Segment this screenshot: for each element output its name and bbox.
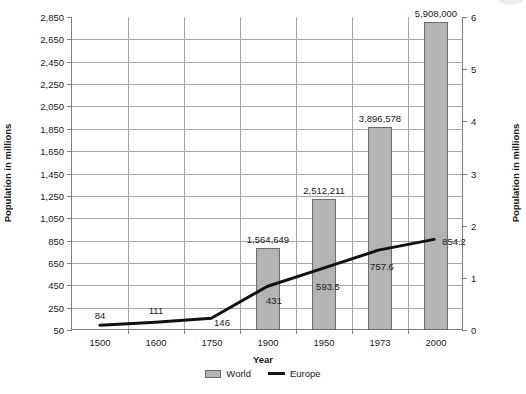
x-axis-tick bbox=[128, 329, 129, 334]
y-axis-right-tick-label: 2 bbox=[471, 220, 476, 231]
legend-label-europe: Europe bbox=[290, 368, 321, 379]
y-axis-right-tick bbox=[462, 174, 467, 175]
x-axis-tick-label: 1600 bbox=[145, 337, 166, 348]
x-axis-tick bbox=[352, 329, 353, 334]
x-axis-tick bbox=[296, 329, 297, 334]
y-axis-right-tick bbox=[462, 278, 467, 279]
y-axis-left-tick-label: 850 bbox=[48, 235, 64, 246]
y-axis-left-tick bbox=[67, 330, 72, 331]
x-axis-tick-label: 2000 bbox=[425, 337, 446, 348]
line-data-label: 854.2 bbox=[442, 236, 466, 247]
y-axis-left-tick-label: 1,050 bbox=[40, 213, 64, 224]
y-axis-right-tick-label: 6 bbox=[471, 12, 476, 23]
y-axis-right-tick bbox=[462, 226, 467, 227]
x-axis-tick bbox=[240, 329, 241, 334]
y-axis-left-tick-label: 450 bbox=[48, 280, 64, 291]
line-data-label: 111 bbox=[149, 305, 163, 316]
line-data-label: 593.5 bbox=[316, 281, 340, 292]
y-axis-right-title: Population in millions bbox=[510, 124, 521, 223]
legend-item-world[interactable]: World bbox=[205, 368, 251, 379]
legend-item-europe[interactable]: Europe bbox=[268, 368, 321, 379]
y-axis-left-title: Population in millions bbox=[2, 124, 13, 223]
y-axis-right-tick-label: 5 bbox=[471, 64, 476, 75]
y-axis-left-tick-label: 2,650 bbox=[40, 34, 64, 45]
x-axis-tick-label: 1973 bbox=[369, 337, 390, 348]
y-axis-right-tick bbox=[462, 17, 467, 18]
y-axis-left-tick-label: 1,850 bbox=[40, 123, 64, 134]
line-data-label: 431 bbox=[266, 295, 282, 306]
scan-artifact bbox=[498, 0, 524, 5]
population-combo-chart: Population in millions Population in mil… bbox=[0, 0, 526, 394]
y-axis-right-tick bbox=[462, 330, 467, 331]
x-axis-tick-label: 1950 bbox=[313, 337, 334, 348]
y-axis-right-tick bbox=[462, 69, 467, 70]
y-axis-right-tick-label: 3 bbox=[471, 168, 476, 179]
line-data-label: 84 bbox=[95, 310, 106, 321]
line-data-label: 146 bbox=[214, 317, 230, 328]
y-axis-left-tick-label: 1,450 bbox=[40, 168, 64, 179]
y-axis-left-tick-label: 2,250 bbox=[40, 79, 64, 90]
y-axis-left-tick-label: 1,250 bbox=[40, 190, 64, 201]
line-series-europe bbox=[72, 17, 462, 329]
y-axis-left-tick-label: 250 bbox=[48, 302, 64, 313]
plot-area: 502504506508501,0501,2501,4501,6501,8502… bbox=[71, 17, 463, 330]
y-axis-right-tick-label: 4 bbox=[471, 116, 476, 127]
y-axis-left-tick-label: 50 bbox=[53, 325, 64, 336]
y-axis-left-tick-label: 2,450 bbox=[40, 56, 64, 67]
bar-swatch-icon bbox=[205, 370, 221, 378]
x-axis-tick bbox=[408, 329, 409, 334]
x-axis-title: Year bbox=[0, 354, 526, 365]
x-axis-tick-label: 1750 bbox=[201, 337, 222, 348]
chart-legend: World Europe bbox=[0, 368, 526, 379]
y-axis-left-tick-label: 2,850 bbox=[40, 12, 64, 23]
y-axis-left-tick-label: 650 bbox=[48, 257, 64, 268]
y-axis-left-tick-label: 2,050 bbox=[40, 101, 64, 112]
x-axis-tick bbox=[184, 329, 185, 334]
x-axis-tick-label: 1500 bbox=[89, 337, 110, 348]
y-axis-right-tick-label: 0 bbox=[471, 325, 476, 336]
y-axis-right-tick bbox=[462, 121, 467, 122]
line-data-label: 757.6 bbox=[370, 261, 394, 272]
legend-label-world: World bbox=[226, 368, 251, 379]
y-axis-left-tick-label: 1,650 bbox=[40, 146, 64, 157]
line-swatch-icon bbox=[268, 372, 285, 375]
y-axis-right-tick-label: 1 bbox=[471, 272, 476, 283]
x-axis-tick-label: 1900 bbox=[257, 337, 278, 348]
